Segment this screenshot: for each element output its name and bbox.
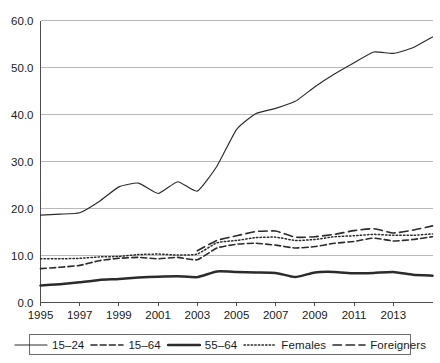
y-tick-label: 50.0 (11, 62, 33, 74)
series-line-55-64 (41, 271, 433, 285)
legend-swatch-solid-thin-icon (14, 339, 48, 351)
series-line-15-64 (41, 237, 433, 269)
legend-swatch-dashed-icon (90, 339, 124, 351)
x-tick-label: 1999 (106, 309, 132, 321)
y-tick-label: 0.0 (18, 297, 34, 309)
x-axis-tickmarks (41, 303, 394, 307)
x-axis-labels: 1995199719992001200320052007200920112013 (28, 309, 406, 321)
y-axis-labels: 0.010.020.030.040.050.060.0 (11, 15, 33, 309)
x-tick-label: 2007 (263, 309, 289, 321)
x-tick-label: 2003 (185, 309, 211, 321)
legend-label: 55–64 (205, 339, 237, 351)
legend-swatch-long-dash-icon (332, 339, 366, 351)
line-chart: 0.010.020.030.040.050.060.0 199519971999… (0, 0, 440, 363)
legend-item-foreigners[interactable]: Foreigners (332, 339, 426, 351)
chart-canvas: 0.010.020.030.040.050.060.0 199519971999… (0, 0, 440, 363)
legend-item-15-24[interactable]: 15–24 (14, 339, 84, 351)
y-tick-label: 30.0 (11, 156, 33, 168)
legend-swatch-dotted-icon (243, 339, 277, 351)
legend-label: 15–64 (128, 339, 160, 351)
legend-swatch-solid-thick-icon (167, 339, 201, 351)
gridlines (41, 21, 433, 256)
x-tick-label: 2001 (145, 309, 171, 321)
legend-label: Foreigners (370, 339, 426, 351)
legend-item-15-64[interactable]: 15–64 (90, 339, 160, 351)
legend-item-55-64[interactable]: 55–64 (167, 339, 237, 351)
y-tick-label: 60.0 (11, 15, 33, 27)
x-tick-label: 1997 (67, 309, 93, 321)
y-tick-label: 10.0 (11, 250, 33, 262)
x-tick-label: 1995 (28, 309, 54, 321)
x-tick-label: 2005 (224, 309, 250, 321)
y-tick-label: 40.0 (11, 109, 33, 121)
x-tick-label: 2013 (381, 309, 407, 321)
y-tick-label: 20.0 (11, 203, 33, 215)
x-tick-label: 2009 (302, 309, 328, 321)
legend-label: Females (281, 339, 326, 351)
x-tick-label: 2011 (342, 309, 367, 321)
chart-legend: 15–2415–6455–64FemalesForeigners (29, 334, 411, 355)
legend-label: 15–24 (52, 339, 84, 351)
legend-item-females[interactable]: Females (243, 339, 326, 351)
series-line-15-24 (41, 37, 433, 215)
